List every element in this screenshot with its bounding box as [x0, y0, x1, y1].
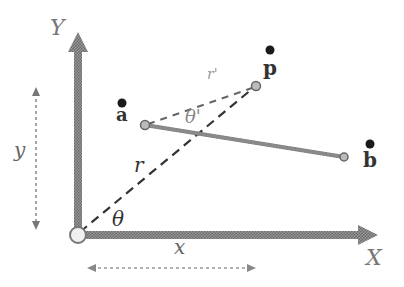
point-b-label: b	[363, 148, 377, 172]
point-a-label: a	[116, 104, 128, 125]
theta-prime-label: θ'	[185, 106, 201, 127]
coordinate-diagram: Y X y x θ r θ' r' a p b	[0, 0, 404, 287]
diagram-svg: Y X y x θ r θ' r' a p b	[0, 0, 404, 287]
segment-endpoint-p	[252, 82, 261, 91]
y-dimension-label: y	[13, 138, 26, 162]
x-dimension-arrow	[87, 264, 256, 272]
y-dimension-arrow	[32, 87, 40, 230]
r-prime-label: r'	[207, 66, 218, 82]
theta-label: θ	[112, 207, 124, 231]
r-label: r	[134, 153, 145, 177]
y-axis-arrowhead-icon	[68, 32, 88, 52]
origin-circle	[70, 227, 86, 243]
point-p-dot	[266, 46, 275, 55]
y-axis	[68, 32, 88, 235]
y-axis-label: Y	[50, 15, 67, 40]
radius-r-line	[80, 89, 252, 232]
x-axis-label: X	[364, 245, 383, 270]
point-p-label: p	[263, 56, 277, 80]
x-axis-arrowhead-icon	[358, 225, 378, 245]
segment-endpoint-a	[141, 121, 150, 130]
segment-endpoint-b	[340, 153, 348, 161]
x-dimension-label: x	[174, 235, 185, 259]
